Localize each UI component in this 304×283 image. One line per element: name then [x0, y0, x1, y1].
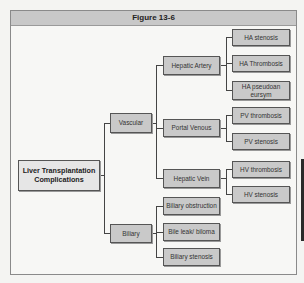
leaf-pv-stenosis: PV stenosis	[232, 133, 290, 150]
figure-title: Figure 13-6	[11, 11, 296, 26]
connector	[156, 128, 163, 129]
connector	[226, 115, 227, 142]
node-portal-venous: Portal Venous	[163, 119, 220, 137]
node-vascular: Vascular	[110, 113, 152, 133]
leaf-ha-thrombosis: HA Thrombosis	[232, 55, 290, 72]
node-hepatic-artery: Hepatic Artery	[163, 56, 220, 75]
node-biliary: Biliary	[110, 224, 152, 243]
connector	[226, 169, 227, 195]
connector	[104, 123, 105, 234]
leaf-biliary-obstruction: Biliary obstruction	[163, 197, 220, 215]
leaf-ha-stenosis: HA stenosis	[232, 29, 290, 46]
node-hepatic-vein: Hepatic Vein	[163, 169, 220, 188]
connector	[156, 257, 163, 258]
leaf-hv-stenosis: HV stenosis	[232, 186, 290, 203]
leaf-bile-leak-biloma: Bile leak/ biloma	[163, 223, 220, 241]
page-edge-tab	[301, 159, 304, 241]
root-node: Liver Transplantation Complications	[18, 160, 100, 191]
connector	[156, 65, 157, 179]
leaf-pv-thrombosis: PV thrombosis	[232, 107, 290, 124]
leaf-ha-pseudoaneurysm-label: HA pseudoaneursym	[241, 83, 281, 98]
leaf-ha-pseudoaneurysm: HA pseudoaneursym	[232, 81, 290, 100]
connector	[156, 65, 163, 66]
connector	[156, 206, 163, 207]
connector	[156, 178, 163, 179]
leaf-hv-thrombosis: HV thrombosis	[232, 161, 290, 178]
connector	[156, 232, 163, 233]
leaf-biliary-stenosis: Biliary stenosis	[163, 248, 220, 266]
